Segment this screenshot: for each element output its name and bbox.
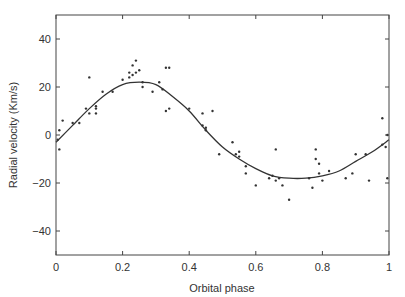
data-point (318, 172, 320, 174)
radial-velocity-chart: 00.20.40.60.81 −40−2002040 Orbital phase… (0, 0, 405, 297)
data-point (211, 110, 213, 112)
data-point (138, 69, 140, 71)
data-point (278, 177, 280, 179)
data-point (131, 74, 133, 76)
x-axis-ticks: 00.20.40.60.81 (53, 15, 392, 273)
data-point (201, 112, 203, 114)
data-point (321, 179, 323, 181)
data-point (151, 91, 153, 93)
data-point (131, 64, 133, 66)
data-point (128, 71, 130, 73)
data-point (288, 199, 290, 201)
x-tick-label: 0.8 (315, 261, 330, 273)
data-point (245, 172, 247, 174)
data-point (95, 112, 97, 114)
data-point (235, 153, 237, 155)
data-point (386, 134, 388, 136)
x-tick-label: 1 (386, 261, 392, 273)
plot-frame (56, 15, 389, 255)
data-point (381, 143, 383, 145)
fitted-curve (56, 82, 389, 178)
data-point (121, 79, 123, 81)
data-point (238, 155, 240, 157)
y-tick-label: −20 (32, 177, 51, 189)
data-point (78, 122, 80, 124)
data-point (231, 141, 233, 143)
data-point (355, 153, 357, 155)
y-tick-label: 20 (39, 81, 51, 93)
y-axis-label: Radial velocity (Km/s) (7, 82, 19, 188)
data-point (345, 177, 347, 179)
data-point (165, 110, 167, 112)
data-point (238, 151, 240, 153)
data-point (95, 105, 97, 107)
data-point (158, 81, 160, 83)
data-point (168, 67, 170, 69)
data-point (58, 148, 60, 150)
data-point (328, 170, 330, 172)
data-point (135, 59, 137, 61)
data-point (245, 165, 247, 167)
data-point (318, 163, 320, 165)
data-point (95, 107, 97, 109)
data-point (311, 187, 313, 189)
data-point (281, 184, 283, 186)
y-tick-label: −40 (32, 225, 51, 237)
data-point (268, 177, 270, 179)
data-point (85, 107, 87, 109)
data-point (161, 88, 163, 90)
data-point (61, 119, 63, 121)
data-point (205, 127, 207, 129)
data-point (128, 76, 130, 78)
data-point (381, 117, 383, 119)
data-point (188, 107, 190, 109)
y-tick-label: 40 (39, 33, 51, 45)
data-point (364, 153, 366, 155)
data-point (141, 81, 143, 83)
x-tick-label: 0 (53, 261, 59, 273)
data-point (141, 86, 143, 88)
data-point (351, 172, 353, 174)
data-point (88, 76, 90, 78)
data-point (218, 153, 220, 155)
data-point (386, 177, 388, 179)
data-point (56, 139, 58, 141)
data-point (271, 175, 273, 177)
x-tick-label: 0.2 (115, 261, 130, 273)
data-point (255, 184, 257, 186)
x-axis-label: Orbital phase (189, 282, 254, 294)
data-point (275, 179, 277, 181)
data-point (308, 177, 310, 179)
x-tick-label: 0.4 (182, 261, 197, 273)
data-point (135, 71, 137, 73)
data-point (58, 129, 60, 131)
data-point (275, 148, 277, 150)
data-point (368, 179, 370, 181)
data-point (168, 107, 170, 109)
data-points (56, 59, 388, 201)
data-point (315, 148, 317, 150)
data-point (201, 124, 203, 126)
data-point (71, 122, 73, 124)
y-tick-label: 0 (45, 129, 51, 141)
data-point (101, 91, 103, 93)
data-point (205, 129, 207, 131)
data-point (111, 91, 113, 93)
data-point (165, 67, 167, 69)
data-point (88, 112, 90, 114)
x-tick-label: 0.6 (248, 261, 263, 273)
data-point (315, 158, 317, 160)
data-point (384, 146, 386, 148)
